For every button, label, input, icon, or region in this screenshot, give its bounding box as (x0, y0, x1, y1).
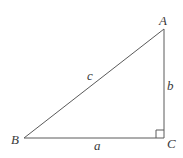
vertex-label-b: B (11, 133, 19, 146)
vertex-label-a: A (159, 14, 167, 27)
vertex-label-c: C (167, 137, 176, 150)
right-triangle-diagram: A B C c b a (0, 0, 183, 158)
side-c-hypotenuse-line (24, 29, 164, 138)
right-angle-marker-icon (156, 130, 164, 138)
side-label-a: a (94, 139, 101, 152)
side-label-c: c (87, 69, 93, 82)
side-label-b: b (167, 79, 174, 92)
